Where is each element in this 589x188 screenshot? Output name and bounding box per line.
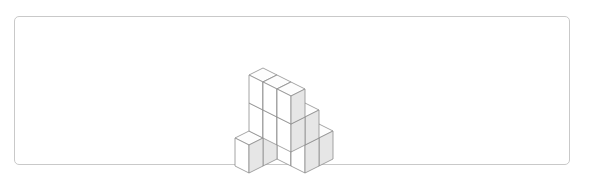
cube [235, 131, 263, 173]
cube-group [235, 68, 333, 173]
cube-stack-canvas [0, 0, 589, 188]
cube [277, 82, 305, 124]
isometric-cube-figure [0, 0, 589, 188]
